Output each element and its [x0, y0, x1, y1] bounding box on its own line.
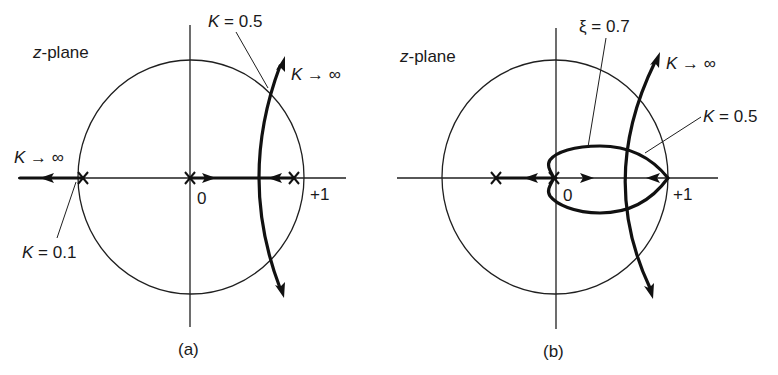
unit-label: +1 — [310, 185, 329, 204]
annotation-k-infinity-upper: K → ∞ — [666, 54, 716, 73]
leader-k-half — [645, 117, 701, 153]
annotation-k-infinity-upper: K → ∞ — [291, 65, 341, 84]
annotation-k-tenth: K = 0.1 — [22, 243, 76, 262]
leader-xi — [588, 38, 606, 147]
origin-label: 0 — [197, 189, 206, 208]
panel-b: z-plane ξ = 0.7 K → ∞ K = 0.5 0 +1 (b) — [397, 17, 757, 361]
plane-label: z-plane — [399, 47, 456, 66]
annotation-k-infinity-left: K → ∞ — [14, 148, 64, 167]
leader-k-half — [236, 32, 268, 88]
root-locus-figure: z-plane K = 0.5 K → ∞ K → ∞ K = 0.1 0 +1… — [0, 0, 778, 375]
panel-caption: (b) — [543, 342, 564, 361]
origin-label: 0 — [563, 186, 572, 205]
panel-caption: (a) — [178, 340, 199, 359]
leader-k-tenth — [57, 182, 76, 238]
unit-label: +1 — [673, 185, 692, 204]
annotation-k-half: K = 0.5 — [703, 107, 757, 126]
annotation-k-half: K = 0.5 — [208, 12, 262, 31]
annotation-xi: ξ = 0.7 — [579, 17, 630, 36]
panel-a: z-plane K = 0.5 K → ∞ K → ∞ K = 0.1 0 +1… — [14, 12, 346, 359]
plane-label: z-plane — [32, 43, 89, 62]
